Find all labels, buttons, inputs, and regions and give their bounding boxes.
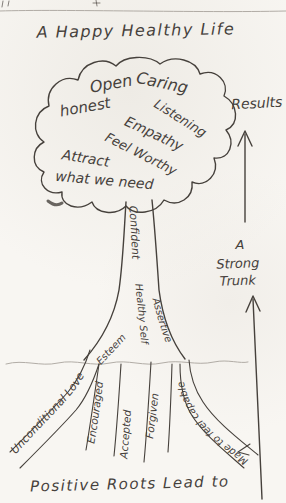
root-word-encouraged: Encouraged [84,380,105,444]
cloud-word-caring: Caring [135,68,190,97]
results-label: Results [231,94,283,113]
trunk-word-assertive: Assertive [150,296,174,344]
scanned-drawing-page: A Happy Healthy Life Open Caring honest … [0,0,286,503]
left-root-lower-line [20,364,99,468]
strong-trunk-label-trunk: Trunk [219,272,256,288]
page-top-rule [0,10,286,11]
inner-right-root-line [168,364,172,452]
results-arrow-up-icon [238,131,252,222]
bottom-caption: Positive Roots Lead to [30,472,230,495]
root-word-accepted: Accepted [117,409,133,460]
root-word-made-to-feel-capable: Made to feel capable [175,381,250,468]
strong-trunk-arrow-up-icon [246,296,262,499]
trunk-word-confident: Confident [126,205,142,260]
strong-trunk-label-a: A [235,237,245,252]
cloud-word-honest: honest [58,94,113,121]
cloud-word-attract: Attract [60,146,111,170]
trunk-word-esteem: Esteem [94,332,128,367]
strong-trunk-label-strong: Strong [216,255,260,271]
strong-trunk-arrow-shaft [253,299,262,499]
tree-sketch: A Happy Healthy Life Open Caring honest … [0,0,286,503]
root-word-unconditional-love: Unconditional Love [8,370,87,457]
ink-smudge [48,201,62,205]
cloud-word-open: Open [88,71,133,97]
cloud-word-what-we-need: what we need [55,168,154,193]
trunk-word-healthy-self: Healthy Self [133,283,150,346]
ground-line [6,361,248,364]
handwriting: A Happy Healthy Life Open Caring honest … [8,19,283,495]
page-title: A Happy Healthy Life [35,19,235,41]
scan-artifact-marks [2,0,100,7]
root-word-forgiven: Forgiven [143,392,160,439]
